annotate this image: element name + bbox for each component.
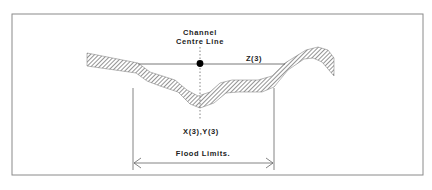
channel-bed-profile [87, 47, 334, 108]
label-flood-limits: Flood Limits. [176, 149, 230, 158]
label-centre-line: Centre Line [176, 37, 224, 46]
channel-cross-section-diagram: Channel Centre Line Z(3) X(3),Y(3) Flood… [0, 0, 432, 190]
centre-point-marker [197, 60, 204, 67]
label-xy: X(3),Y(3) [183, 127, 219, 136]
label-z: Z(3) [246, 54, 262, 63]
label-channel: Channel [183, 28, 217, 37]
